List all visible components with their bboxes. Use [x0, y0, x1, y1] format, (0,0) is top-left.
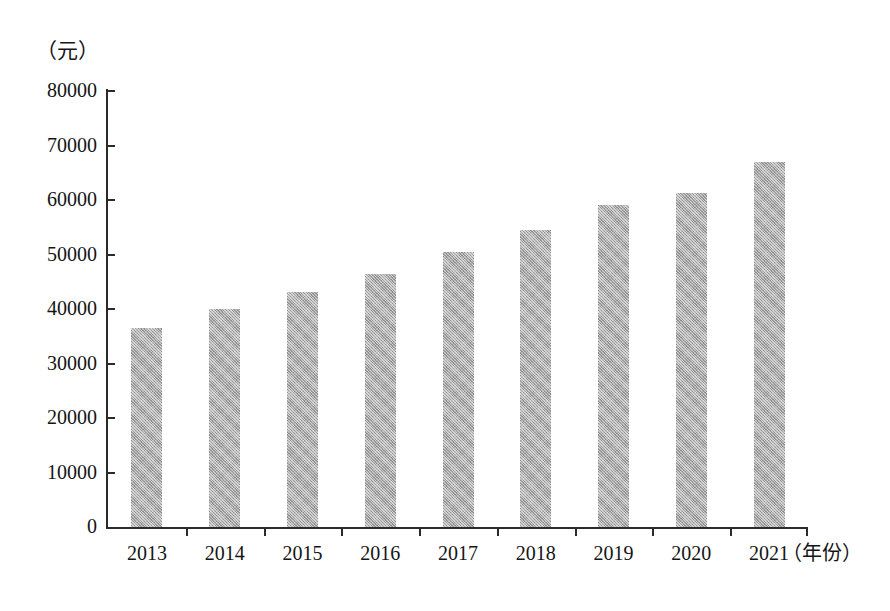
bar	[520, 230, 551, 527]
bar	[365, 274, 396, 527]
x-axis-tick-label: 2018	[491, 540, 581, 566]
x-axis-tick-label: 2015	[257, 540, 347, 566]
x-axis-tick-mark	[497, 527, 499, 536]
x-axis-line	[106, 527, 806, 529]
y-axis-unit-label: （元）	[36, 34, 99, 64]
y-axis-tick-label: 70000	[47, 132, 106, 158]
y-axis-tick-label: 10000	[47, 459, 106, 485]
x-axis-tick-label: 2017	[413, 540, 503, 566]
x-axis-tick-mark	[186, 527, 188, 536]
x-axis-tick-mark	[806, 527, 808, 536]
x-axis-tick-label: 2016	[335, 540, 425, 566]
y-axis-tick-label: 40000	[47, 295, 106, 321]
x-axis-tick-mark	[341, 527, 343, 536]
x-axis-tick-mark	[730, 527, 732, 536]
bar	[131, 328, 162, 527]
y-axis-tick-label: 20000	[47, 404, 106, 430]
x-axis-tick-label: 2019	[569, 540, 659, 566]
plot-area	[106, 90, 806, 527]
x-axis-tick-label: 2014	[180, 540, 270, 566]
x-axis-unit-label: （年份）	[782, 540, 862, 566]
x-axis-tick-label: 2013	[102, 540, 192, 566]
x-axis-tick-mark	[264, 527, 266, 536]
bar	[209, 309, 240, 527]
x-axis-tick-mark	[575, 527, 577, 536]
bar	[287, 292, 318, 527]
x-axis-tick-label: 2020	[646, 540, 736, 566]
x-axis-tick-mark	[419, 527, 421, 536]
bar	[754, 162, 785, 527]
y-axis-tick-label: 30000	[47, 350, 106, 376]
y-axis-tick-label: 80000	[47, 77, 106, 103]
bar-chart-figure: （元） 010000200003000040000500006000070000…	[0, 0, 890, 611]
bar	[443, 252, 474, 527]
y-axis-tick-label: 0	[87, 513, 106, 539]
y-axis-tick-label: 60000	[47, 186, 106, 212]
x-axis-tick-mark	[652, 527, 654, 536]
bar	[676, 193, 707, 527]
bar	[598, 205, 629, 527]
y-axis-tick-label: 50000	[47, 241, 106, 267]
